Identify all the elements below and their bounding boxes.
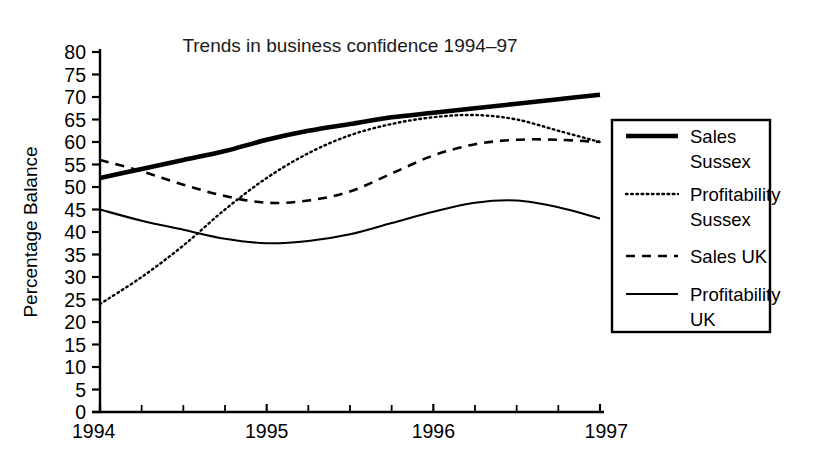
legend-label-line2[interactable]: Sussex <box>690 209 751 230</box>
x-tick-label: 1994 <box>72 420 116 442</box>
x-tick-label: 1997 <box>585 420 628 442</box>
y-tick-label: 15 <box>64 334 86 356</box>
line-chart: Percentage Balance Trends in business co… <box>0 0 815 454</box>
y-tick-label: 50 <box>64 176 86 198</box>
y-tick-label: 45 <box>64 199 86 221</box>
x-axis-tick-labels: 1994199519961997 <box>72 420 628 442</box>
legend-label[interactable]: Sales <box>690 126 736 147</box>
y-tick-label: 10 <box>64 356 86 378</box>
legend: SalesSussexProfitabilitySussexSales UKPr… <box>612 120 781 332</box>
y-axis-tick-labels: 05101520253035404550556065707580 <box>64 41 86 423</box>
legend-label[interactable]: Sales UK <box>690 246 768 267</box>
y-axis-title: Percentage Balance <box>20 146 41 317</box>
y-tick-label: 75 <box>64 64 86 86</box>
y-tick-label: 70 <box>64 86 86 108</box>
legend-label[interactable]: Profitability <box>690 284 781 305</box>
y-tick-label: 55 <box>64 154 86 176</box>
series-line-sales-uk <box>100 139 600 203</box>
series-line-profitability-uk <box>100 200 600 243</box>
y-tick-label: 30 <box>64 266 86 288</box>
chart-container: Percentage Balance Trends in business co… <box>0 0 815 454</box>
y-tick-label: 60 <box>64 131 86 153</box>
legend-label-line2[interactable]: UK <box>690 309 716 330</box>
y-tick-label: 80 <box>64 41 86 63</box>
y-tick-label: 40 <box>64 221 86 243</box>
data-series-group <box>100 95 600 304</box>
y-tick-label: 65 <box>64 109 86 131</box>
y-tick-label: 5 <box>75 379 86 401</box>
y-tick-label: 20 <box>64 311 86 333</box>
legend-label[interactable]: Profitability <box>690 184 781 205</box>
x-tick-label: 1995 <box>245 420 289 442</box>
x-tick-label: 1996 <box>412 420 455 442</box>
legend-label-line2[interactable]: Sussex <box>690 151 751 172</box>
y-tick-label: 35 <box>64 244 86 266</box>
y-tick-label: 25 <box>64 289 86 311</box>
chart-title: Trends in business confidence 1994–97 <box>182 35 517 56</box>
series-line-profitability-sussex <box>100 115 600 304</box>
